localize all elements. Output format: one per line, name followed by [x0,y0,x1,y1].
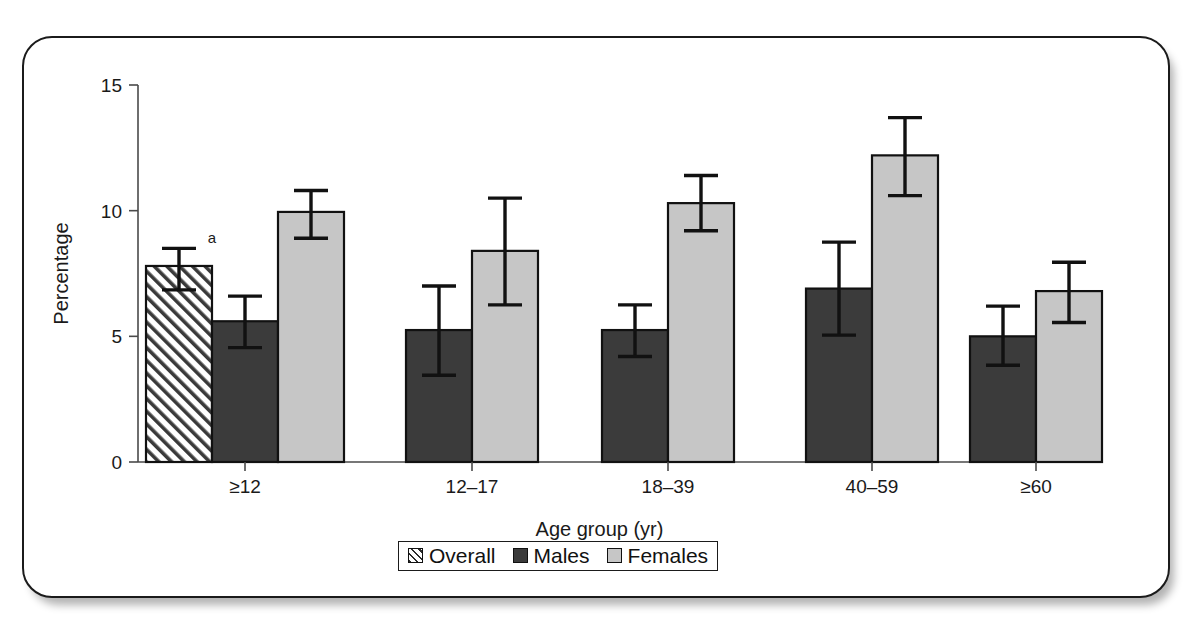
figure-root: 051015≥1212–1718–3940–59≥60aAge group (y… [0,0,1193,639]
legend-label-females: Females [628,545,709,566]
dark-gray-swatch-icon [513,548,528,563]
legend-item-females: Females [607,545,709,566]
legend-label-overall: Overall [429,545,496,566]
light-gray-swatch-icon [607,548,622,563]
legend-item-males: Males [513,545,590,566]
legend-item-overall: Overall [408,545,496,566]
chart-legend: Overall Males Females [398,541,718,571]
hatched-swatch-icon [408,548,423,563]
figure-panel-border [22,36,1170,598]
legend-label-males: Males [534,545,590,566]
